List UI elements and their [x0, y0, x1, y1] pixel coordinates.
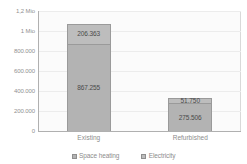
- bar-group[interactable]: 206.363867.255: [67, 24, 111, 131]
- bar-segment[interactable]: 206.363: [67, 24, 111, 45]
- bars-layer: 206.363867.25551.750275.506: [38, 11, 241, 131]
- legend-item[interactable]: Space heating: [72, 152, 120, 160]
- bar-segment[interactable]: 275.506: [168, 103, 212, 131]
- y-axis-tick-label: 0: [32, 128, 35, 135]
- bar-value-label: 867.255: [77, 84, 100, 92]
- bar-group[interactable]: 51.750275.506: [168, 98, 212, 131]
- legend-swatch-icon: [141, 154, 146, 159]
- legend-label: Space heating: [79, 152, 119, 160]
- y-axis-tick-label: 400.000: [14, 88, 35, 95]
- y-axis-tick-label: 200.000: [14, 108, 35, 115]
- bar-segment[interactable]: 867.255: [67, 44, 111, 131]
- y-axis-tick-label: 1,2 Mio: [16, 8, 35, 15]
- legend-item[interactable]: Electricity: [141, 152, 175, 160]
- stacked-bar-chart: 0200.000400.000600.000800.0001 Mio1,2 Mi…: [0, 0, 247, 164]
- y-axis-tick-label: 800.000: [14, 48, 35, 55]
- chart-legend: Space heatingElectricity: [0, 150, 247, 162]
- legend-swatch-icon: [72, 154, 77, 159]
- x-axis-line: [38, 131, 241, 132]
- y-axis-tick-label: 1 Mio: [21, 28, 35, 35]
- bar-value-label: 206.363: [77, 30, 100, 38]
- y-axis-tick-label: 600.000: [14, 68, 35, 75]
- x-axis-category-label: Existing: [77, 133, 100, 142]
- y-axis-tick-labels: 0200.000400.000600.000800.0001 Mio1,2 Mi…: [0, 11, 35, 131]
- bar-value-label: 275.506: [179, 114, 202, 122]
- x-axis-category-labels: ExistingRefurbished: [38, 133, 241, 145]
- legend-label: Electricity: [149, 152, 176, 160]
- x-axis-category-label: Refurbished: [173, 133, 208, 142]
